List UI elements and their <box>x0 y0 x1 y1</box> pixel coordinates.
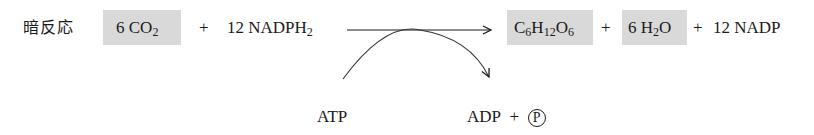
coefficient: 6 <box>628 18 637 37</box>
plus-sign: + <box>601 18 611 38</box>
phosphate-circle-icon: P <box>528 109 546 127</box>
coefficient: 12 <box>713 18 730 37</box>
formula-text: O <box>659 18 671 37</box>
formula-text: H <box>641 18 653 37</box>
product-water: 6 H2O <box>628 18 671 38</box>
subscript: 6 <box>568 25 574 39</box>
adp-phosphate-label: ADP + P <box>467 107 546 127</box>
plus-sign: + <box>510 107 520 126</box>
formula-text: C <box>514 18 525 37</box>
coupled-curved-arrow-icon <box>343 29 489 79</box>
reaction-arrows <box>0 0 814 135</box>
formula-text: H <box>531 18 543 37</box>
atp-label: ATP <box>317 107 347 127</box>
adp-text: ADP <box>467 107 501 126</box>
subscript: 12 <box>544 25 556 39</box>
formula-text: O <box>556 18 568 37</box>
product-nadp: 12 NADP <box>713 18 781 38</box>
product-glucose: C6H12O6 <box>514 18 574 38</box>
plus-sign: + <box>693 18 703 38</box>
formula-text: NADP <box>734 18 780 37</box>
